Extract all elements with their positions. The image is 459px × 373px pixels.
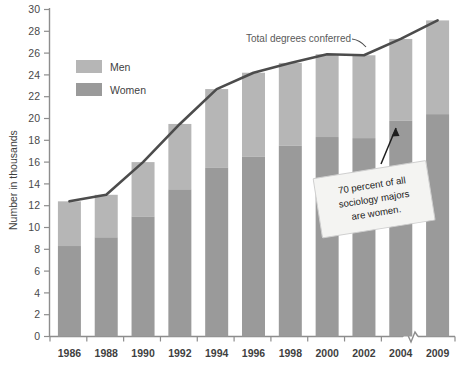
bar-segment-women-1998 <box>279 146 302 337</box>
total-line-annotation: Total degrees conferred <box>246 33 366 47</box>
legend-label-men: Men <box>110 61 131 73</box>
bar-1996 <box>242 73 265 337</box>
bar-1986 <box>58 201 81 336</box>
bar-segment-women-1992 <box>168 189 191 336</box>
y-tick-label: 4 <box>34 287 40 299</box>
y-tick-label: 8 <box>34 243 40 255</box>
bar-1988 <box>95 195 118 337</box>
y-tick-label: 20 <box>28 112 40 124</box>
chart-figure: Number in thousands 02468101214161820222… <box>0 0 459 373</box>
bar-segment-women-1986 <box>58 246 81 336</box>
bar-segment-women-1988 <box>95 237 118 336</box>
bar-1994 <box>205 89 228 336</box>
bar-1990 <box>132 162 155 336</box>
x-tick-label-2002: 2002 <box>352 347 376 359</box>
y-tick-label: 18 <box>28 134 40 146</box>
y-tick-label: 16 <box>28 156 40 168</box>
x-axis-ticks: 1986198819901992199419961998200020022004… <box>50 337 455 359</box>
y-tick-label: 22 <box>28 90 40 102</box>
total-line-label: Total degrees conferred <box>246 33 351 44</box>
bar-2009 <box>426 20 449 336</box>
legend-swatch-women <box>76 83 102 96</box>
bar-segment-men-2002 <box>352 55 375 138</box>
y-axis-title: Number in thousands <box>7 130 19 230</box>
bar-segment-men-2000 <box>316 54 339 137</box>
x-tick-label-2009: 2009 <box>426 347 450 359</box>
bar-segment-women-1996 <box>242 157 265 337</box>
bar-segment-men-2004 <box>389 39 412 121</box>
y-tick-label: 0 <box>34 330 40 342</box>
y-tick-label: 2 <box>34 308 40 320</box>
x-tick-label-1990: 1990 <box>131 347 155 359</box>
y-tick-label: 12 <box>28 199 40 211</box>
legend-swatch-men <box>76 60 102 73</box>
y-tick-label: 10 <box>28 221 40 233</box>
y-tick-label: 24 <box>28 69 40 81</box>
bar-segment-men-1998 <box>279 63 302 146</box>
y-tick-label: 28 <box>28 25 40 37</box>
y-tick-label: 26 <box>28 47 40 59</box>
x-tick-label-1988: 1988 <box>95 347 119 359</box>
bar-segment-women-1994 <box>205 168 228 337</box>
total-line-leader <box>352 39 366 47</box>
y-axis-ticks: 024681012141618202224262830 <box>28 3 50 342</box>
y-tick-label: 14 <box>28 178 40 190</box>
bar-segment-women-2002 <box>352 138 375 336</box>
bar-segment-women-2004 <box>389 121 412 337</box>
chart-legend: Men Women <box>76 60 146 96</box>
bar-segment-men-1996 <box>242 73 265 157</box>
bar-1998 <box>279 63 302 337</box>
x-tick-label-1992: 1992 <box>168 347 192 359</box>
bar-segment-men-1986 <box>58 201 81 246</box>
bar-segment-women-1990 <box>132 217 155 337</box>
bar-segment-men-1994 <box>205 89 228 167</box>
x-tick-label-2004: 2004 <box>389 347 413 359</box>
y-tick-label: 6 <box>34 265 40 277</box>
bar-1992 <box>168 124 191 337</box>
x-tick-label-1994: 1994 <box>205 347 229 359</box>
bar-segment-men-1988 <box>95 195 118 238</box>
y-tick-label: 30 <box>28 3 40 15</box>
x-tick-label-2000: 2000 <box>315 347 339 359</box>
bar-segment-women-2009 <box>426 114 449 336</box>
x-tick-label-1986: 1986 <box>58 347 82 359</box>
bar-segment-men-2009 <box>426 20 449 114</box>
sociology-degrees-stacked-bar-chart: Number in thousands 02468101214161820222… <box>0 0 459 373</box>
x-tick-label-1998: 1998 <box>279 347 303 359</box>
legend-label-women: Women <box>110 84 146 96</box>
x-tick-label-1996: 1996 <box>242 347 266 359</box>
